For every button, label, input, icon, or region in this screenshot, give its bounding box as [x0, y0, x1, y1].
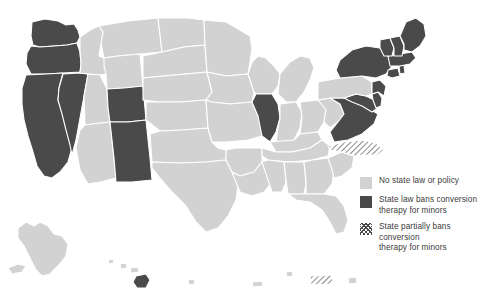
no-law-swatch	[360, 177, 372, 189]
state-oregon[interactable]	[26, 43, 81, 74]
state-hawaii-kauai[interactable]	[108, 259, 114, 264]
territory-puerto-rico[interactable]	[310, 275, 333, 285]
legend-label-no-law: No state law or policy	[379, 176, 459, 187]
state-arizona[interactable]	[76, 122, 116, 184]
map-infographic: No state law or policy State law bans co…	[0, 0, 491, 304]
state-hawaii-maui[interactable]	[130, 267, 139, 273]
state-washington[interactable]	[31, 19, 80, 47]
legend-text-ban-line2: therapy for minors	[379, 206, 447, 215]
state-hawaii-big-island[interactable]	[133, 274, 150, 288]
legend-text-partial-line2: therapy for minors	[379, 243, 447, 252]
state-kansas[interactable]	[146, 100, 208, 131]
legend-text-no-law: No state law or policy	[379, 176, 459, 185]
state-nebraska[interactable]	[143, 72, 212, 102]
legend-text-partial-line1: State partially bans conversion	[379, 222, 451, 242]
state-texas[interactable]	[152, 160, 238, 232]
state-alaska[interactable]	[18, 222, 68, 276]
legend-label-partial: State partially bans conversion therapy …	[379, 222, 488, 254]
legend-item-partial[interactable]: State partially bans conversion therapy …	[360, 222, 488, 254]
legend-label-ban: State law bans conversion therapy for mi…	[379, 195, 477, 216]
state-florida[interactable]	[288, 194, 348, 234]
state-maine[interactable]	[400, 18, 426, 52]
territory-guam[interactable]	[188, 279, 195, 285]
state-iowa[interactable]	[206, 72, 254, 104]
map-legend: No state law or policy State law bans co…	[360, 176, 488, 260]
state-wyoming[interactable]	[104, 54, 143, 89]
state-hawaii-oahu[interactable]	[120, 263, 127, 269]
state-north-carolina[interactable]	[328, 140, 384, 156]
state-wisconsin[interactable]	[248, 56, 280, 94]
ban-swatch	[360, 196, 372, 208]
partial-swatch	[360, 223, 372, 235]
territory-virgin-islands[interactable]	[348, 277, 357, 284]
state-colorado[interactable]	[107, 86, 146, 122]
state-new-mexico[interactable]	[110, 120, 152, 182]
territory-northern-marianas[interactable]	[286, 271, 293, 277]
state-michigan[interactable]	[278, 56, 314, 102]
territory-samoa[interactable]	[252, 281, 263, 287]
legend-item-ban[interactable]: State law bans conversion therapy for mi…	[360, 195, 488, 216]
state-alaska-aleutians[interactable]	[8, 264, 26, 274]
state-minnesota[interactable]	[204, 20, 252, 76]
legend-text-ban-line1: State law bans conversion	[379, 195, 477, 204]
state-alabama[interactable]	[284, 162, 306, 194]
legend-item-no-law[interactable]: No state law or policy	[360, 176, 488, 189]
state-montana[interactable]	[99, 18, 162, 58]
state-connecticut[interactable]	[387, 68, 400, 78]
